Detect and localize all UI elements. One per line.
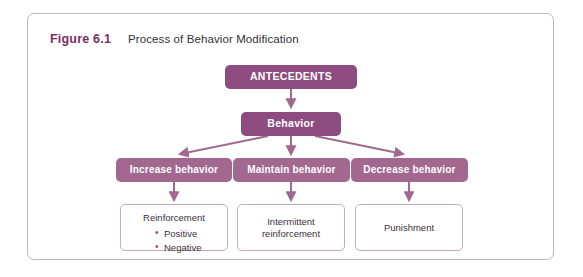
node-intermittent-reinforcement-label: Intermittent reinforcement xyxy=(238,216,344,240)
figure-caption: Figure 6.1 Process of Behavior Modificat… xyxy=(50,32,299,46)
node-maintain-behavior-label: Maintain behavior xyxy=(247,164,335,177)
node-reinforcement[interactable]: Reinforcement Positive Negative xyxy=(120,204,228,251)
node-punishment-label: Punishment xyxy=(378,222,440,234)
node-decrease-behavior[interactable]: Decrease behavior xyxy=(351,158,468,182)
figure-panel: Figure 6.1 Process of Behavior Modificat… xyxy=(27,13,554,260)
node-antecedents[interactable]: ANTECEDENTS xyxy=(225,65,357,89)
node-increase-behavior[interactable]: Increase behavior xyxy=(116,158,232,182)
node-increase-behavior-label: Increase behavior xyxy=(130,164,218,177)
node-punishment[interactable]: Punishment xyxy=(355,204,463,251)
node-behavior[interactable]: Behavior xyxy=(241,112,341,136)
node-maintain-behavior[interactable]: Maintain behavior xyxy=(233,158,350,182)
node-reinforcement-bullet-negative: Negative xyxy=(154,241,221,255)
node-reinforcement-bullet-positive: Positive xyxy=(154,227,221,241)
node-behavior-label: Behavior xyxy=(267,117,314,130)
node-antecedents-label: ANTECEDENTS xyxy=(250,70,332,83)
node-decrease-behavior-label: Decrease behavior xyxy=(363,164,455,177)
node-reinforcement-label: Reinforcement xyxy=(127,212,221,224)
figure-label: Figure 6.1 xyxy=(50,32,111,46)
node-intermittent-reinforcement[interactable]: Intermittent reinforcement xyxy=(237,204,345,251)
figure-title: Process of Behavior Modification xyxy=(128,33,299,45)
